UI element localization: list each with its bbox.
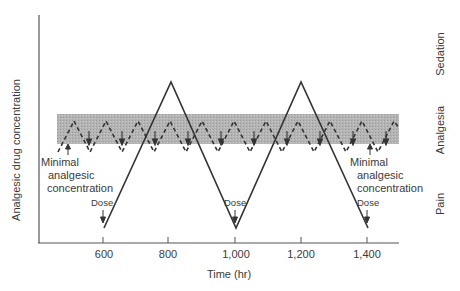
svg-text:concentration: concentration — [47, 182, 113, 194]
y-axis-title: Analgesic drug concentration — [10, 79, 22, 221]
drug-concentration-chart: 600 800 1,000 1,200 1,400 Time (hr) Anal… — [0, 0, 460, 291]
svg-text:Dose: Dose — [224, 197, 246, 208]
svg-text:800: 800 — [159, 248, 177, 260]
svg-text:1,200: 1,200 — [287, 248, 315, 260]
mac-annotation-left: Minimal analgesic concentration — [41, 144, 113, 194]
zone-label-analgesia: Analgesia — [434, 105, 446, 154]
x-tick-labels: 600 800 1,000 1,200 1,400 — [95, 248, 381, 260]
svg-text:600: 600 — [95, 248, 113, 260]
zone-label-sedation: Sedation — [434, 32, 446, 75]
zone-label-pain: Pain — [434, 193, 446, 215]
analgesia-band — [57, 114, 399, 144]
svg-text:Dose: Dose — [91, 197, 113, 208]
svg-text:concentration: concentration — [357, 182, 423, 194]
mac-annotation-right: Minimal analgesic concentration — [350, 144, 423, 194]
svg-text:analgesic: analgesic — [357, 169, 404, 181]
svg-text:Dose: Dose — [357, 197, 379, 208]
svg-text:1,400: 1,400 — [353, 248, 381, 260]
svg-text:Minimal: Minimal — [350, 156, 388, 168]
svg-text:1,000: 1,000 — [222, 248, 250, 260]
svg-text:Minimal: Minimal — [41, 156, 79, 168]
x-ticks — [103, 237, 367, 243]
svg-text:analgesic: analgesic — [48, 169, 95, 181]
x-axis-title: Time (hr) — [207, 268, 251, 280]
dose-annotation-600: Dose — [91, 197, 113, 223]
